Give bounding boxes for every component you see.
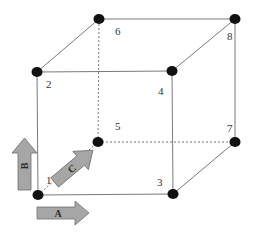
vertex-label-3: 3 <box>157 177 163 188</box>
vertex-label-8: 8 <box>227 31 233 42</box>
arrow-b: B <box>12 138 37 190</box>
arrow-a: A <box>37 201 89 225</box>
vertex-7 <box>230 137 241 147</box>
vertex-label-7: 7 <box>227 123 233 134</box>
edge-4-8 <box>172 19 235 71</box>
arrow-b-label: B <box>19 162 30 169</box>
vertex-1 <box>33 190 44 200</box>
vertex-label-1: 1 <box>46 175 52 186</box>
vertex-2 <box>32 67 43 77</box>
edge-1-2 <box>37 72 38 195</box>
vertex-3 <box>168 189 179 199</box>
hidden-edge-5-6 <box>98 19 99 142</box>
vertex-8 <box>230 14 241 24</box>
vertex-label-4: 4 <box>158 86 164 97</box>
vertex-label-5: 5 <box>115 121 121 132</box>
cube-diagram: B A C 1 2 3 4 5 6 7 8 <box>0 0 254 238</box>
vertex-6 <box>94 14 105 24</box>
vertex-4 <box>167 66 178 76</box>
edge-3-7 <box>173 142 235 194</box>
edge-1-3 <box>38 194 173 195</box>
arrow-c: C <box>47 141 101 192</box>
vertex-label-2: 2 <box>46 79 52 90</box>
edge-3-4 <box>172 71 173 194</box>
cube-svg: B A C <box>0 0 254 238</box>
edge-2-4 <box>37 71 172 72</box>
edge-2-6 <box>37 19 99 72</box>
arrow-a-label: A <box>54 208 62 219</box>
vertex-label-6: 6 <box>115 26 121 37</box>
vertex-5 <box>93 137 104 147</box>
